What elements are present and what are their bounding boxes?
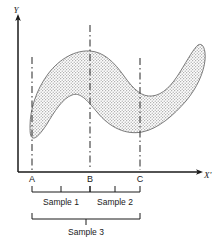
bracket-sample-2: Sample 2 <box>90 186 140 207</box>
y-axis-label: Y <box>13 5 19 15</box>
sampling-diagram: Y X' A B C Sample 1 Sample 2 Sample 3 <box>0 0 218 246</box>
bracket-sample-2-label: Sample 2 <box>97 197 133 207</box>
bracket-sample-3-path <box>32 213 140 225</box>
tick-label-b: B <box>87 174 93 184</box>
bracket-sample-2-path <box>90 186 140 192</box>
bracket-sample-1-label: Sample 1 <box>43 197 79 207</box>
bracket-sample-3-label: Sample 3 <box>68 227 104 237</box>
figure-root: Y X' A B C Sample 1 Sample 2 Sample 3 <box>0 0 218 246</box>
tick-label-c: C <box>137 174 144 184</box>
bracket-sample-3: Sample 3 <box>32 213 140 237</box>
x-axis-label: X' <box>203 170 212 180</box>
shaded-region <box>30 44 205 138</box>
tick-label-a: A <box>29 174 35 184</box>
shaded-region-path <box>30 44 205 138</box>
bracket-sample-1-path <box>32 186 90 192</box>
bracket-sample-1: Sample 1 <box>32 186 90 207</box>
